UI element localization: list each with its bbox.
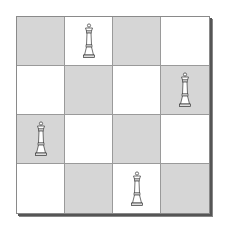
board-square-r3c2 — [113, 164, 161, 213]
board-square-r2c2 — [113, 115, 161, 164]
board-square-r1c3 — [161, 66, 209, 115]
board-square-r0c3 — [161, 17, 209, 66]
board-square-r1c1 — [65, 66, 113, 115]
board-square-r2c1 — [65, 115, 113, 164]
board-square-r0c1 — [65, 17, 113, 66]
board-square-r0c2 — [113, 17, 161, 66]
board-square-r1c2 — [113, 66, 161, 115]
board-square-r0c0 — [17, 17, 65, 66]
queen-icon — [130, 171, 144, 207]
queen-icon — [34, 121, 48, 157]
board-square-r2c0 — [17, 115, 65, 164]
chessboard — [16, 16, 210, 214]
board-square-r3c3 — [161, 164, 209, 213]
board-square-r2c3 — [161, 115, 209, 164]
board-square-r3c1 — [65, 164, 113, 213]
board-square-r3c0 — [17, 164, 65, 213]
queen-icon — [178, 72, 192, 108]
board-square-r1c0 — [17, 66, 65, 115]
queen-icon — [82, 23, 96, 59]
